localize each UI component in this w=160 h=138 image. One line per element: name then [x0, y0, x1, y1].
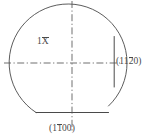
wafer-orientation-figure: 1X (1120) (1100)	[0, 0, 160, 138]
wafer-body	[11, 6, 127, 112]
center-overbar-digit: X	[42, 37, 49, 47]
plane-index-bottom-label: (1100)	[49, 124, 75, 134]
bottom-overbar-digit: 1	[57, 124, 62, 134]
bottom-suffix: 00)	[62, 123, 75, 133]
wafer-arc	[9, 4, 127, 113]
plane-index-right-label: (1120)	[116, 57, 142, 67]
wafer-diagram-svg	[0, 0, 160, 138]
plane-index-center-label: 1X	[37, 37, 49, 47]
right-overbar-digit: 2	[129, 57, 134, 67]
right-suffix: 0)	[133, 56, 141, 66]
right-open: (11	[116, 56, 129, 66]
bottom-open: (1	[49, 123, 57, 133]
